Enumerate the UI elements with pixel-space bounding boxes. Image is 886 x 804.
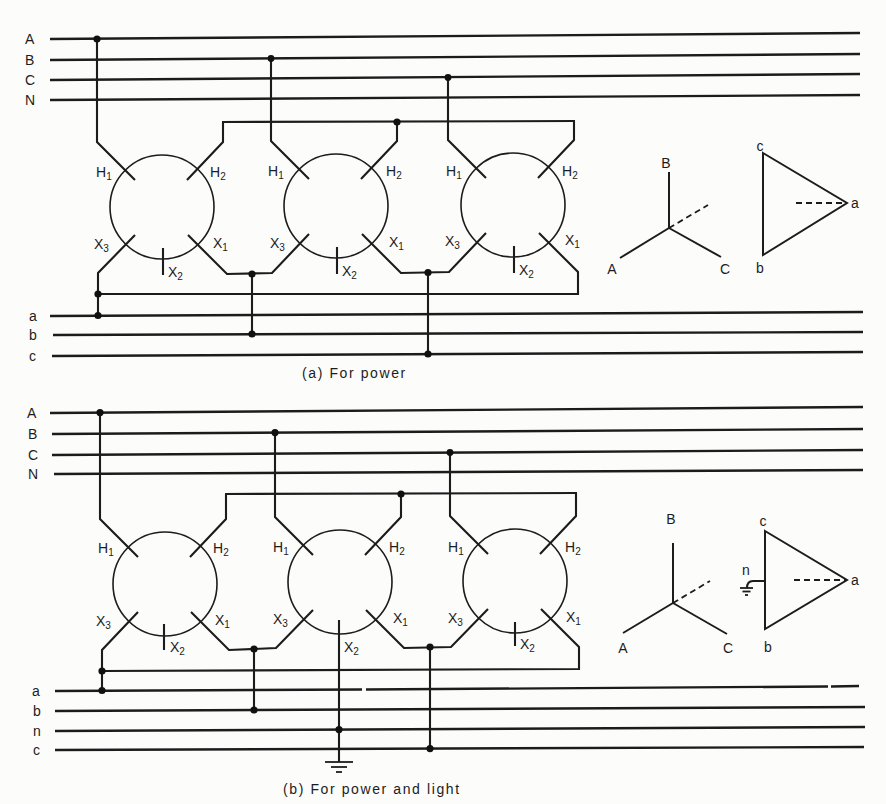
- bus-label-c: c: [29, 348, 36, 364]
- junction-dot: [268, 55, 275, 62]
- junction-dot: [250, 706, 257, 713]
- bus-label-a: a: [32, 683, 40, 699]
- terminal-label-h1: H1: [273, 539, 289, 557]
- terminal-label-x1: X1: [393, 610, 408, 628]
- delta-triangle: [763, 153, 847, 255]
- terminal-label-h2: H2: [386, 163, 402, 181]
- transformer-b2: H1 H2 X3 X1 X2: [273, 530, 408, 657]
- secondary-bus-c: [52, 352, 863, 356]
- wye-phasor: B A C: [618, 511, 733, 656]
- caption-a: (a) For power: [302, 365, 407, 381]
- lead-t2-x1-t3-x3: [362, 233, 486, 273]
- phasor-reference-dashed: [669, 205, 708, 228]
- terminal-label-x2: X2: [519, 262, 534, 280]
- phasor-arm-C: [669, 228, 721, 257]
- phasor-label-A: A: [607, 261, 617, 277]
- bus-label-C: C: [28, 447, 38, 463]
- phasor-arm-A: [623, 603, 673, 633]
- bus-label-N: N: [28, 466, 38, 482]
- phasor-diagram-a: B A C c a b: [607, 138, 859, 277]
- bus-label-b: b: [33, 703, 41, 719]
- primary-bus-A: [50, 33, 860, 39]
- junction-dot: [271, 429, 278, 436]
- junction-dot: [248, 270, 255, 277]
- terminal-label-x2: X2: [520, 636, 535, 654]
- terminal-label-x2: X2: [168, 264, 183, 282]
- junction-dot: [424, 269, 431, 276]
- terminal-label-x3: X3: [448, 610, 463, 628]
- bus-label-A: A: [25, 31, 35, 47]
- transformer-winding: [113, 532, 217, 636]
- transformer-winding: [461, 153, 565, 257]
- terminal-label-h1: H1: [446, 163, 462, 181]
- phasor-label-C: C: [720, 261, 730, 277]
- transformer-a3: H1 H2 X3 X1 X2: [445, 153, 580, 280]
- bus-label-a: a: [29, 308, 37, 324]
- terminal-label-h1: H1: [268, 163, 284, 181]
- terminal-label-x1: X1: [215, 612, 230, 630]
- junction-dot: [94, 290, 101, 297]
- junction-dot: [98, 667, 105, 674]
- bus-label-A: A: [27, 405, 37, 421]
- junction-dot: [397, 490, 404, 497]
- terminal-label-x1: X1: [566, 609, 581, 627]
- terminal-label-h2: H2: [389, 539, 405, 557]
- primary-bus-B: [50, 54, 860, 60]
- transformer-b1: H1 H2 X3 X1 X2: [96, 532, 230, 657]
- primary-bus-N: [54, 470, 863, 474]
- transformer-a2: H1 H2 X3 X1 X2: [268, 154, 404, 281]
- junction-dot: [248, 330, 255, 337]
- transformer-winding: [463, 529, 567, 633]
- secondary-bus-b: [55, 707, 865, 711]
- terminal-label-x2: X2: [344, 639, 359, 657]
- junction-dot: [250, 645, 257, 652]
- ground-icon: [325, 762, 353, 772]
- delta-phasor: c a b n: [740, 513, 859, 655]
- ground-icon: [740, 588, 753, 595]
- phasor-label-c: c: [760, 513, 767, 529]
- transformer-a1: H1 H2 X3 X1 X2: [94, 155, 228, 282]
- junction-dot: [426, 643, 433, 650]
- caption-b: (b) For power and light: [283, 781, 461, 797]
- junction-dot: [335, 726, 342, 733]
- phasor-label-b: b: [756, 260, 764, 276]
- lead-t1-x1-t2-x3: [188, 234, 309, 274]
- wye-phasor: B A C: [607, 155, 730, 277]
- bus-label-n: n: [33, 723, 41, 739]
- phasor-label-c: c: [757, 138, 764, 154]
- primary-bus-A: [50, 407, 863, 413]
- delta-phasor: c a b: [756, 138, 859, 276]
- transformer-winding: [284, 154, 388, 258]
- phasor-label-a: a: [851, 195, 859, 211]
- secondary-bus-b: [53, 332, 863, 335]
- terminal-label-x1: X1: [565, 232, 580, 250]
- transformer-winding: [110, 155, 214, 259]
- phasor-diagram-b: B A C c a b n: [618, 511, 859, 656]
- primary-bus-C: [52, 450, 863, 455]
- primary-bus-C: [50, 74, 860, 80]
- phasor-label-n: n: [742, 562, 750, 578]
- terminal-label-h2: H2: [210, 164, 226, 182]
- bus-label-B: B: [25, 52, 34, 68]
- terminal-label-x3: X3: [445, 233, 460, 251]
- phasor-label-B: B: [666, 511, 675, 527]
- bus-label-B: B: [28, 426, 37, 442]
- phasor-label-b: b: [764, 639, 772, 655]
- phasor-arm-C: [673, 603, 727, 634]
- secondary-bus-c: [55, 747, 864, 750]
- secondary-bus-n: [55, 727, 865, 731]
- junction-dot: [447, 449, 454, 456]
- terminal-label-x1: X1: [213, 235, 228, 253]
- terminal-label-h1: H1: [96, 164, 112, 182]
- lead-t2-x1-t3-x3: [366, 609, 488, 648]
- terminal-label-x1: X1: [389, 234, 404, 252]
- terminal-label-h2: H2: [213, 540, 229, 558]
- transformer-b3: H1 H2 X3 X1 X2: [448, 529, 581, 654]
- terminal-label-x3: X3: [273, 611, 288, 629]
- terminal-label-x3: X3: [94, 236, 109, 254]
- terminal-label-x2: X2: [170, 639, 185, 657]
- terminal-label-h1: H1: [98, 540, 114, 558]
- secondary-bus-a: [831, 686, 859, 687]
- bus-label-c: c: [33, 742, 40, 758]
- transformer-winding: [288, 530, 392, 634]
